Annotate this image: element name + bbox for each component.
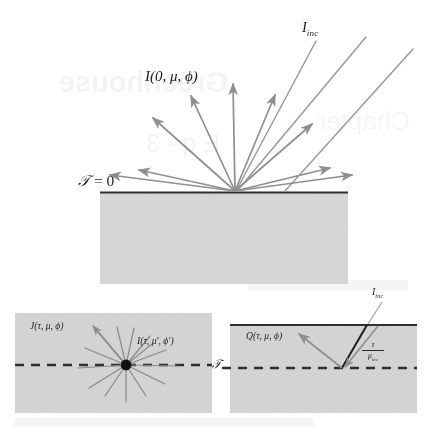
incident-ray-1 <box>236 41 316 191</box>
outgoing-ray-vertical <box>233 84 235 191</box>
label-incoming-intensity-primed: I(τ, μ′, ϕ′) <box>137 336 174 346</box>
label-tau-level: 𝒯 <box>212 358 221 370</box>
label-incident-intensity-bottom: Iinc <box>372 287 383 299</box>
br-iinc-pointer <box>368 302 382 324</box>
outgoing-ray-fan <box>110 84 352 191</box>
label-tau-zero: 𝒯 = 0 <box>78 173 114 190</box>
label-optical-path-fraction: τ μinc <box>362 341 384 362</box>
label-source-function-j: J(τ, μ, ϕ) <box>30 321 63 331</box>
outgoing-ray-upright <box>235 95 275 191</box>
svg-text:Greenhouse: Greenhouse <box>59 66 228 98</box>
label-outgoing-intensity: I(0, μ, ϕ) <box>145 69 198 84</box>
label-incident-intensity-top: Iinc <box>302 20 318 38</box>
radiative-transfer-diagram: Greenhouse E q - 3 Chapter <box>0 0 434 439</box>
bl-scatter-point <box>121 360 132 371</box>
direct-beam-source-panel <box>222 302 417 413</box>
svg-text:Chapter: Chapter <box>317 106 410 136</box>
label-single-scatter-source-q: Q(τ, μ, ϕ) <box>246 331 282 341</box>
top-slab-body <box>100 193 348 284</box>
